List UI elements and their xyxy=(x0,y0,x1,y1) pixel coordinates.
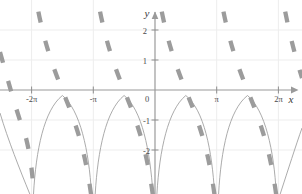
ytick-label--2: -2 xyxy=(143,146,150,156)
xtick-label-2pi: 2π xyxy=(274,94,283,104)
ytick-label--1: -1 xyxy=(143,116,150,126)
xtick-label-pi: π xyxy=(215,94,220,104)
ytick-label-1: 1 xyxy=(143,56,147,66)
plot-background xyxy=(0,0,302,194)
math-plot: -2π -π 0 π 2π 2 1 -1 -2 x y xyxy=(0,0,302,194)
x-axis-label: x xyxy=(288,93,294,105)
xtick-label--pi: -π xyxy=(90,94,98,104)
y-axis-label: y xyxy=(144,7,150,19)
origin-label: 0 xyxy=(145,94,149,104)
ytick-label-2: 2 xyxy=(143,26,147,36)
xtick-label--2pi: -2π xyxy=(26,94,38,104)
chart-canvas: -2π -π 0 π 2π 2 1 -1 -2 x y xyxy=(0,0,302,194)
